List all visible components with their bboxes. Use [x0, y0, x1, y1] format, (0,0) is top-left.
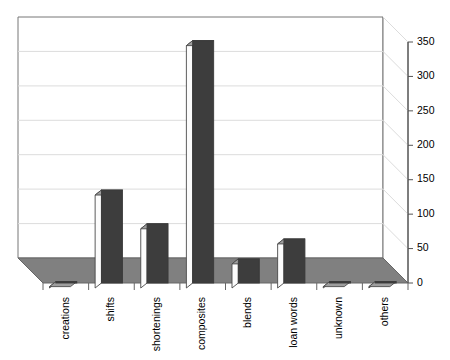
bar-group-shortenings[interactable] — [141, 224, 168, 288]
bar-front-face — [284, 239, 305, 283]
x-tick-label-composites: composites — [195, 297, 207, 350]
y-tick-label-50: 50 — [417, 241, 429, 253]
bar-side-face — [141, 224, 147, 288]
y-axis: 050100150200250300350 — [408, 35, 435, 288]
bar-side-face — [95, 190, 101, 288]
right-wall — [383, 17, 408, 283]
bar-front-face — [147, 224, 168, 283]
bar-front-face — [375, 282, 396, 283]
bar-side-face — [278, 239, 284, 288]
x-tick-label-unknown: unknown — [332, 297, 344, 339]
y-tick-label-0: 0 — [417, 276, 423, 288]
y-tick-label-350: 350 — [417, 35, 435, 47]
bar-group-loan-words[interactable] — [278, 239, 305, 288]
y-tick-label-200: 200 — [417, 138, 435, 150]
x-tick-label-others: others — [378, 297, 390, 326]
bar-group-shifts[interactable] — [95, 190, 122, 288]
bar-chart-figure: 050100150200250300350 creationsshiftssho… — [0, 0, 450, 360]
y-axis-ticks: 050100150200250300350 — [408, 35, 435, 288]
x-tick-label-shortenings: shortenings — [150, 297, 162, 351]
bar-front-face — [56, 282, 77, 283]
y-tick-label-300: 300 — [417, 69, 435, 81]
x-tick-label-blends: blends — [241, 297, 253, 328]
bar-front-face — [101, 190, 122, 283]
y-tick-label-150: 150 — [417, 172, 435, 184]
x-tick-label-loan-words: loan words — [287, 297, 299, 348]
bar-group-composites[interactable] — [186, 41, 213, 288]
x-tick-label-shifts: shifts — [104, 297, 116, 322]
bar-front-face — [330, 282, 351, 283]
bar-side-face — [186, 41, 192, 288]
bar-front-face — [238, 259, 259, 283]
bar-front-face — [193, 41, 214, 283]
bar-group-blends[interactable] — [232, 259, 259, 288]
y-tick-label-100: 100 — [417, 207, 435, 219]
y-tick-label-250: 250 — [417, 104, 435, 116]
chart-canvas: 050100150200250300350 creationsshiftssho… — [0, 0, 450, 360]
x-tick-label-creations: creations — [59, 297, 71, 340]
x-axis-ticks: creationsshiftsshorteningscompositesblen… — [43, 283, 408, 351]
